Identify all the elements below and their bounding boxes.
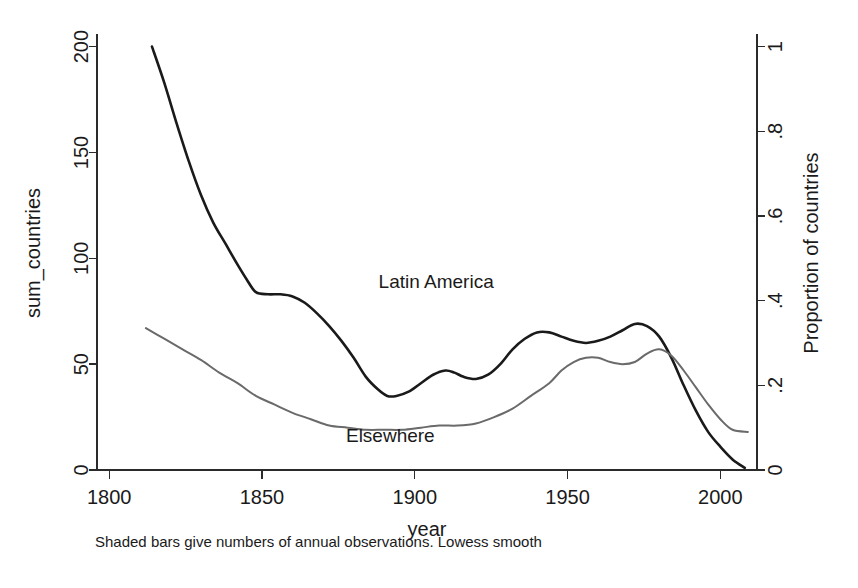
x-tick-label: 1850 (240, 486, 285, 508)
y2-tick-label: .6 (764, 208, 786, 225)
y2-tick-label: .8 (764, 123, 786, 140)
y2-tick-label: 0 (764, 464, 786, 475)
x-tick-label: 1950 (545, 486, 590, 508)
y2-tick-label: .2 (764, 377, 786, 394)
y2-tick-label: 1 (764, 41, 786, 52)
y2-tick-label: .4 (764, 292, 786, 309)
y-tick-label: 150 (70, 136, 92, 169)
x-tick-label: 1900 (393, 486, 438, 508)
series-label-latin-america: Latin America (379, 271, 495, 292)
y-tick-label: 50 (70, 353, 92, 375)
chart-footnote: Shaded bars give numbers of annual obser… (95, 533, 542, 550)
series-line-latin-america (152, 47, 745, 468)
y-tick-label: 200 (70, 30, 92, 63)
y-tick-label: 100 (70, 242, 92, 275)
y-axis-title: sum_countries (22, 188, 45, 318)
y-tick-label: 0 (70, 464, 92, 475)
line-chart-svg: 0501001502000.2.4.6.81180018501900195020… (0, 0, 858, 588)
chart-figure: 0501001502000.2.4.6.81180018501900195020… (0, 0, 858, 588)
x-tick-label: 1800 (87, 486, 132, 508)
x-tick-label: 2000 (698, 486, 743, 508)
series-label-elsewhere: Elsewhere (346, 425, 435, 446)
series-line-elsewhere (146, 328, 748, 432)
y2-axis-title: Proportion of countries (800, 152, 822, 353)
